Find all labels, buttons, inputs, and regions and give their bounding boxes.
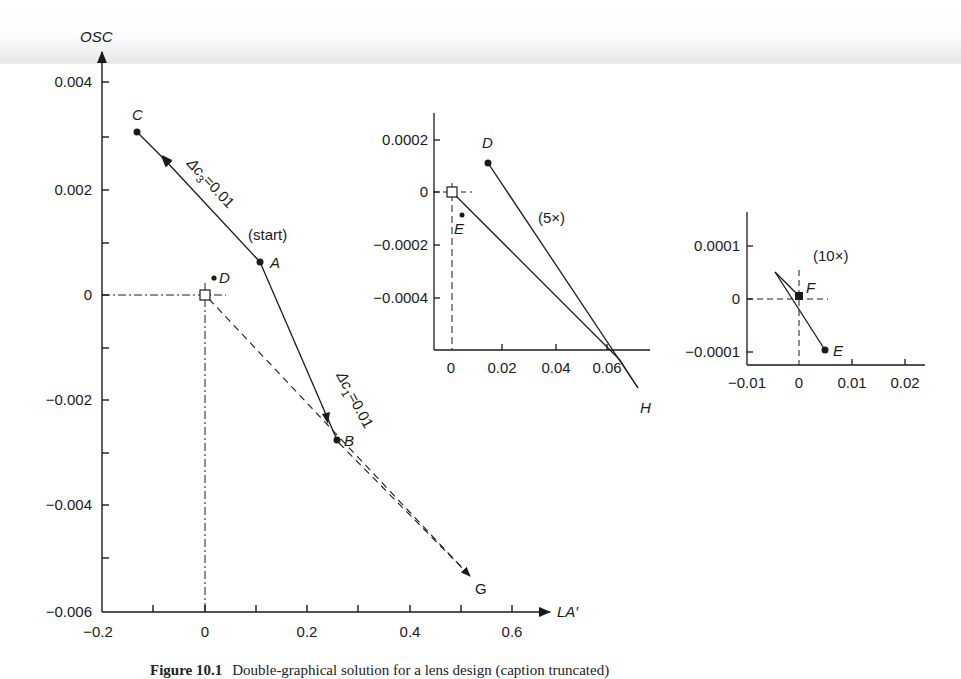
main-y-ticks bbox=[102, 82, 109, 558]
inset5-label-H: H bbox=[640, 399, 651, 416]
svg-text:0.002: 0.002 bbox=[54, 181, 92, 198]
svg-text:0.01: 0.01 bbox=[837, 374, 866, 391]
label-A: A bbox=[269, 254, 280, 271]
label-delta-c3: Δc3=0.01 bbox=[181, 154, 238, 213]
inset10-y-tick-labels: 0.0001 0 −0.0001 bbox=[685, 237, 740, 360]
figure-caption: Figure 10.1Double-graphical solution for… bbox=[150, 662, 609, 679]
arrow-toward-C-icon bbox=[162, 155, 172, 166]
label-start: (start) bbox=[248, 226, 287, 243]
svg-text:0: 0 bbox=[732, 290, 740, 307]
point-C bbox=[134, 129, 141, 136]
svg-text:−0.002: −0.002 bbox=[46, 391, 92, 408]
label-D: D bbox=[219, 269, 230, 286]
label-G: G bbox=[475, 580, 487, 597]
inset5-label-D: D bbox=[482, 134, 493, 151]
svg-text:0: 0 bbox=[447, 359, 455, 376]
svg-text:−0.2: −0.2 bbox=[83, 623, 113, 640]
label-delta-c1: Δc1=0.01 bbox=[330, 368, 377, 433]
svg-text:0.0002: 0.0002 bbox=[382, 131, 428, 148]
main-x-tick-labels: −0.2 0 0.2 0.4 0.6 bbox=[83, 623, 522, 640]
segment-A-to-B bbox=[260, 262, 359, 440]
inset5-point-D bbox=[485, 160, 492, 167]
svg-text:0.02: 0.02 bbox=[890, 374, 919, 391]
inset10-label-F: F bbox=[806, 279, 816, 296]
svg-text:0: 0 bbox=[84, 286, 92, 303]
point-B bbox=[334, 437, 341, 444]
segment-A-to-C bbox=[137, 132, 260, 262]
inset5-segment-D-to-H bbox=[488, 163, 638, 388]
svg-text:−0.006: −0.006 bbox=[46, 603, 92, 620]
inset-5x bbox=[434, 113, 650, 388]
svg-text:0.4: 0.4 bbox=[400, 623, 421, 640]
main-x-ticks bbox=[153, 605, 512, 612]
svg-text:0.6: 0.6 bbox=[502, 623, 523, 640]
label-B: B bbox=[344, 432, 354, 449]
inset5-title: (5×) bbox=[538, 209, 565, 226]
inset10-F-square-icon bbox=[795, 292, 803, 300]
svg-text:0.004: 0.004 bbox=[54, 73, 92, 90]
svg-text:0: 0 bbox=[201, 623, 209, 640]
inset5-y-tick-labels: 0.0002 0 −0.0002 −0.0004 bbox=[373, 131, 428, 306]
figure-caption-text: Double-graphical solution for a lens des… bbox=[232, 662, 609, 678]
dashed-B-to-G bbox=[339, 443, 470, 576]
inset5-label-E: E bbox=[454, 220, 465, 237]
inset10-segment-E-to-apex bbox=[775, 272, 825, 350]
svg-text:−0.0002: −0.0002 bbox=[373, 236, 428, 253]
inset5-target-square-icon bbox=[447, 187, 457, 197]
inset5-point-E bbox=[460, 213, 465, 218]
target-square-icon bbox=[200, 290, 210, 300]
svg-text:0.04: 0.04 bbox=[541, 359, 570, 376]
main-x-axis-label: LA′ bbox=[557, 603, 579, 620]
svg-text:−0.01: −0.01 bbox=[728, 374, 766, 391]
main-y-tick-labels: 0.004 0.002 0 −0.002 −0.004 −0.006 bbox=[46, 73, 92, 620]
svg-text:−0.004: −0.004 bbox=[46, 496, 92, 513]
svg-text:0.0001: 0.0001 bbox=[694, 237, 740, 254]
svg-text:0: 0 bbox=[420, 183, 428, 200]
inset10-x-tick-labels: −0.01 0 0.01 0.02 bbox=[728, 374, 920, 391]
svg-text:0.2: 0.2 bbox=[297, 623, 318, 640]
inset10-label-E: E bbox=[833, 342, 844, 359]
svg-text:−0.0004: −0.0004 bbox=[373, 289, 428, 306]
label-C: C bbox=[132, 106, 143, 123]
point-A bbox=[257, 259, 264, 266]
dashed-target-to-G bbox=[209, 299, 468, 574]
main-y-axis-label: OSC bbox=[80, 28, 113, 45]
svg-text:0: 0 bbox=[795, 374, 803, 391]
inset10-title: (10×) bbox=[813, 247, 848, 264]
inset10-point-E bbox=[822, 347, 829, 354]
svg-text:0.06: 0.06 bbox=[592, 359, 621, 376]
figure-number: Figure 10.1 bbox=[150, 662, 222, 678]
inset5-x-tick-labels: 0 0.02 0.04 0.06 bbox=[447, 359, 622, 376]
svg-text:0.02: 0.02 bbox=[487, 359, 516, 376]
svg-text:−0.0001: −0.0001 bbox=[685, 343, 740, 360]
point-D bbox=[211, 275, 216, 280]
